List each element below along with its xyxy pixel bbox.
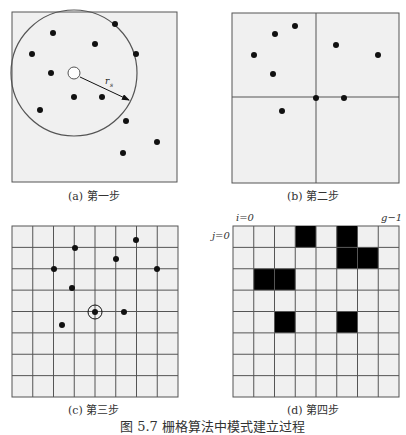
- data-point: [313, 95, 319, 101]
- data-point: [123, 118, 129, 124]
- data-point: [279, 108, 285, 114]
- data-point: [48, 70, 54, 76]
- data-point: [71, 94, 77, 100]
- data-point: [37, 107, 43, 113]
- data-point: [154, 266, 160, 272]
- data-point: [51, 266, 57, 272]
- filled-cell: [275, 269, 296, 290]
- data-point: [270, 71, 276, 77]
- filled-cell: [337, 226, 358, 247]
- data-point: [59, 322, 65, 328]
- data-point: [92, 309, 98, 315]
- filled-cell: [337, 247, 358, 268]
- data-point: [133, 237, 139, 243]
- filled-cell: [275, 312, 296, 333]
- data-point: [99, 94, 105, 100]
- data-point: [69, 285, 75, 291]
- data-point: [154, 139, 160, 145]
- radius-label-sub: s: [110, 81, 113, 88]
- data-point: [375, 52, 381, 58]
- data-point: [272, 31, 278, 37]
- data-point: [120, 150, 126, 156]
- data-point: [341, 95, 347, 101]
- data-point: [72, 245, 78, 251]
- filled-cell: [295, 226, 316, 247]
- center-marker: [68, 67, 80, 79]
- label-i0: i=0: [236, 212, 254, 223]
- data-point: [113, 256, 119, 262]
- filled-cell: [337, 312, 358, 333]
- data-point: [50, 30, 56, 36]
- panel-c-caption: (c) 第三步: [68, 401, 119, 417]
- panel-d-caption: (d) 第四步: [287, 401, 339, 417]
- data-point: [29, 51, 35, 57]
- data-point: [292, 23, 298, 29]
- data-point: [92, 41, 98, 47]
- data-point: [133, 51, 139, 57]
- label-j0: j=0: [212, 230, 230, 241]
- panel-a-frame: [12, 12, 177, 182]
- data-point: [333, 42, 339, 48]
- panel-a-caption: (a) 第一步: [68, 187, 120, 203]
- panel-b-caption: (b) 第二步: [287, 187, 339, 203]
- data-point: [112, 21, 118, 27]
- data-point: [121, 309, 127, 315]
- label-g-minus-1: g−1: [381, 212, 402, 223]
- figure-caption: 图 5.7 栅格算法中模式建立过程: [120, 416, 305, 435]
- data-point: [251, 52, 257, 58]
- filled-cell: [254, 269, 275, 290]
- filled-cell: [358, 247, 379, 268]
